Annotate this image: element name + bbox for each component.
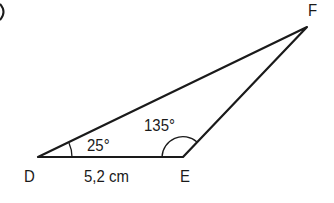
vertex-label-d: D	[24, 168, 35, 185]
angle-label-e: 135°	[144, 117, 175, 134]
triangle-def	[38, 27, 307, 157]
angle-label-d: 25°	[87, 137, 110, 154]
vertex-label-e: E	[180, 168, 190, 185]
vertex-label-f: F	[308, 2, 317, 19]
triangle-drawing	[0, 0, 334, 203]
side-label-de: 5,2 cm	[84, 168, 129, 185]
angle-arc-d	[69, 143, 72, 157]
corner-fragment	[0, 4, 4, 20]
